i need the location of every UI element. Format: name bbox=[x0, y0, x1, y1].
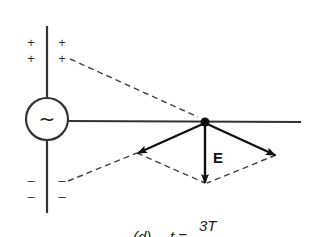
left-component-vector-arrow-icon bbox=[138, 123, 205, 153]
caption-part: (d) bbox=[133, 228, 151, 237]
ac-source-symbol-icon: ~ bbox=[39, 107, 56, 131]
minus-sign: – bbox=[27, 189, 35, 204]
horizontal-axis-line bbox=[68, 121, 301, 122]
plus-sign: + bbox=[27, 35, 35, 50]
field-vectors bbox=[138, 123, 275, 183]
lower-dashed-line bbox=[68, 153, 137, 181]
ac-source: ~ bbox=[26, 98, 68, 140]
caption-numerator: 3T bbox=[199, 217, 218, 234]
parallelogram-left-dashed bbox=[137, 153, 205, 183]
minus-sign: – bbox=[27, 173, 35, 188]
upper-dashed-line bbox=[70, 59, 198, 117]
caption: (d) t = 3T bbox=[133, 217, 218, 237]
dipole-antenna-field-diagram: ~ + + + + – – – – E (d) t = 3T bbox=[0, 0, 323, 237]
caption-equation-lhs: t = bbox=[170, 228, 187, 237]
field-label-e: E bbox=[213, 149, 223, 166]
plus-sign: + bbox=[27, 51, 35, 66]
plus-sign: + bbox=[58, 35, 66, 50]
minus-sign: – bbox=[58, 189, 66, 204]
plus-sign: + bbox=[58, 51, 66, 66]
minus-sign: – bbox=[58, 173, 66, 188]
